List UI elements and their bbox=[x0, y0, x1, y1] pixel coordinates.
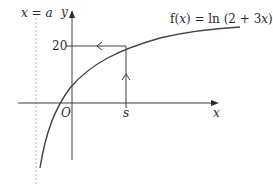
asymptote-label: x = a bbox=[21, 6, 53, 20]
x-tick-label-s: s bbox=[123, 106, 129, 120]
function-graph: x = a y 20 f(x) = ln (2 + 3x) O s x bbox=[0, 0, 273, 184]
y-axis-arrow-icon bbox=[69, 10, 75, 18]
function-curve bbox=[40, 27, 240, 168]
y-tick-label-20: 20 bbox=[52, 39, 67, 53]
x-axis-label: x bbox=[213, 106, 220, 120]
function-label: f(x) = ln (2 + 3x) bbox=[170, 12, 273, 26]
origin-label: O bbox=[61, 106, 71, 120]
y-axis-label: y bbox=[60, 5, 68, 19]
